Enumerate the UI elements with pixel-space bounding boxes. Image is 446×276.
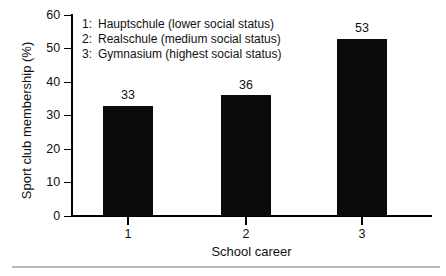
legend-key-2: 2:: [82, 32, 98, 47]
x-tick-mark-3: [361, 217, 363, 225]
legend: 1: Hauptschule (lower social status) 2: …: [82, 17, 281, 62]
bar-value-3: 53: [332, 22, 392, 35]
x-tick-mark-2: [245, 217, 247, 225]
bar-value-1: 33: [98, 89, 158, 102]
legend-label-1: Hauptschule (lower social status): [98, 17, 274, 32]
bar-value-2: 36: [216, 79, 276, 92]
bar-3: [337, 39, 387, 217]
footer-divider: [12, 266, 440, 268]
x-tick-mark-1: [127, 217, 129, 225]
x-axis-title: School career: [71, 245, 432, 258]
legend-label-3: Gymnasium (highest social status): [98, 47, 281, 62]
y-axis-line: [71, 14, 73, 217]
legend-key-1: 1:: [82, 17, 98, 32]
x-tick-label-3: 3: [342, 228, 382, 241]
x-tick-label-2: 2: [226, 228, 266, 241]
legend-key-3: 3:: [82, 47, 98, 62]
bar-2: [221, 95, 271, 216]
bar-chart-figure: 60 50 40 30 20 10 0 33 36 53 1 2 3 Sport…: [0, 0, 446, 276]
bar-1: [103, 106, 153, 217]
legend-item-2: 2: Realschule (medium social status): [82, 32, 281, 47]
legend-label-2: Realschule (medium social status): [98, 32, 281, 47]
x-tick-label-1: 1: [108, 228, 148, 241]
y-axis-title: Sport club membership (%): [20, 21, 33, 221]
legend-item-3: 3: Gymnasium (highest social status): [82, 47, 281, 62]
legend-item-1: 1: Hauptschule (lower social status): [82, 17, 281, 32]
y-tick-label-60-wrap: 60: [14, 9, 60, 21]
